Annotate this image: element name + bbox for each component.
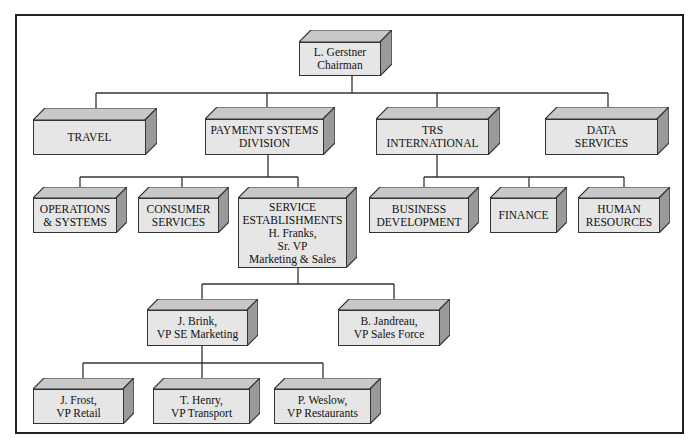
node-business-development: BUSINESS DEVELOPMENT: [369, 187, 479, 233]
node-label: FINANCE: [490, 198, 557, 233]
node-operations-systems: OPERATIONS & SYSTEMS: [33, 187, 127, 233]
node-label: BUSINESS DEVELOPMENT: [369, 198, 469, 233]
node-brink: J. Brink, VP SE Marketing: [147, 299, 258, 346]
node-label: TRS INTERNATIONAL: [376, 119, 489, 155]
node-label: B. Jandreau, VP Sales Force: [338, 310, 440, 346]
node-jandreau: B. Jandreau, VP Sales Force: [338, 299, 450, 346]
node-label: P. Weslow, VP Restaurants: [274, 389, 371, 424]
node-label: HUMAN RESOURCES: [578, 198, 660, 233]
node-consumer-services: CONSUMER SERVICES: [138, 187, 229, 233]
node-label: J. Frost, VP Retail: [33, 389, 124, 424]
node-trs-international: TRS INTERNATIONAL: [376, 107, 500, 155]
node-human-resources: HUMAN RESOURCES: [578, 187, 670, 233]
node-payment-systems-division: PAYMENT SYSTEMS DIVISION: [205, 107, 335, 155]
node-frost: J. Frost, VP Retail: [33, 378, 134, 424]
node-label: J. Brink, VP SE Marketing: [147, 310, 248, 346]
node-data-services: DATA SERVICES: [545, 107, 669, 155]
node-label: T. Henry, VP Transport: [153, 389, 250, 424]
node-label: PAYMENT SYSTEMS DIVISION: [205, 119, 324, 155]
node-label: L. Gerstner Chairman: [299, 42, 381, 76]
node-label: TRAVEL: [33, 120, 146, 155]
node-finance: FINANCE: [490, 187, 567, 233]
node-label: CONSUMER SERVICES: [138, 198, 219, 233]
node-weslow: P. Weslow, VP Restaurants: [274, 378, 381, 424]
node-henry: T. Henry, VP Transport: [153, 378, 260, 424]
node-chairman: L. Gerstner Chairman: [299, 30, 392, 76]
node-label: SERVICE ESTABLISHMENTS H. Franks, Sr. VP…: [238, 198, 347, 268]
node-service-establishments: SERVICE ESTABLISHMENTS H. Franks, Sr. VP…: [238, 187, 357, 268]
node-label: DATA SERVICES: [545, 119, 658, 155]
node-label: OPERATIONS & SYSTEMS: [33, 198, 117, 233]
node-travel: TRAVEL: [33, 108, 157, 155]
